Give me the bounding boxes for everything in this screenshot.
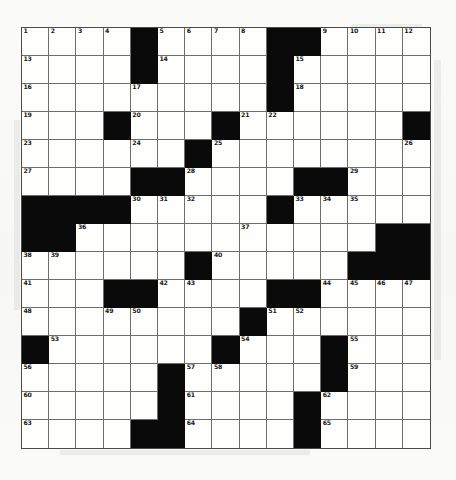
crossword-open-cell[interactable]	[321, 84, 348, 112]
crossword-open-cell[interactable]: 41	[22, 280, 49, 308]
crossword-open-cell[interactable]	[104, 224, 131, 252]
crossword-open-cell[interactable]	[376, 84, 403, 112]
crossword-open-cell[interactable]	[104, 336, 131, 364]
crossword-open-cell[interactable]	[376, 308, 403, 336]
crossword-open-cell[interactable]	[76, 420, 103, 448]
crossword-open-cell[interactable]	[76, 336, 103, 364]
crossword-open-cell[interactable]	[403, 84, 430, 112]
crossword-open-cell[interactable]	[158, 224, 185, 252]
crossword-open-cell[interactable]: 45	[348, 280, 375, 308]
crossword-open-cell[interactable]: 55	[348, 336, 375, 364]
crossword-open-cell[interactable]: 48	[22, 308, 49, 336]
crossword-open-cell[interactable]	[76, 392, 103, 420]
crossword-open-cell[interactable]	[104, 56, 131, 84]
crossword-open-cell[interactable]	[185, 84, 212, 112]
crossword-open-cell[interactable]	[321, 140, 348, 168]
crossword-open-cell[interactable]	[376, 112, 403, 140]
crossword-open-cell[interactable]	[403, 392, 430, 420]
crossword-open-cell[interactable]: 36	[76, 224, 103, 252]
crossword-open-cell[interactable]: 52	[294, 308, 321, 336]
crossword-open-cell[interactable]	[376, 420, 403, 448]
crossword-open-cell[interactable]	[49, 308, 76, 336]
crossword-open-cell[interactable]	[240, 84, 267, 112]
crossword-open-cell[interactable]: 21	[240, 112, 267, 140]
crossword-open-cell[interactable]	[212, 420, 239, 448]
crossword-open-cell[interactable]: 49	[104, 308, 131, 336]
crossword-open-cell[interactable]	[240, 392, 267, 420]
crossword-open-cell[interactable]	[294, 364, 321, 392]
crossword-open-cell[interactable]	[49, 168, 76, 196]
crossword-open-cell[interactable]: 29	[348, 168, 375, 196]
crossword-open-cell[interactable]	[158, 252, 185, 280]
crossword-open-cell[interactable]: 18	[294, 84, 321, 112]
crossword-open-cell[interactable]	[76, 84, 103, 112]
crossword-open-cell[interactable]: 61	[185, 392, 212, 420]
crossword-open-cell[interactable]: 4	[104, 28, 131, 56]
crossword-open-cell[interactable]	[76, 112, 103, 140]
crossword-open-cell[interactable]: 14	[158, 56, 185, 84]
crossword-open-cell[interactable]: 56	[22, 364, 49, 392]
crossword-open-cell[interactable]	[376, 364, 403, 392]
crossword-open-cell[interactable]: 20	[131, 112, 158, 140]
crossword-open-cell[interactable]	[321, 252, 348, 280]
crossword-open-cell[interactable]: 26	[403, 140, 430, 168]
crossword-open-cell[interactable]	[240, 196, 267, 224]
crossword-open-cell[interactable]	[185, 112, 212, 140]
crossword-open-cell[interactable]	[376, 140, 403, 168]
crossword-open-cell[interactable]: 2	[49, 28, 76, 56]
crossword-open-cell[interactable]	[49, 84, 76, 112]
crossword-open-cell[interactable]: 43	[185, 280, 212, 308]
crossword-open-cell[interactable]	[348, 112, 375, 140]
crossword-open-cell[interactable]: 42	[158, 280, 185, 308]
crossword-open-cell[interactable]	[131, 364, 158, 392]
crossword-open-cell[interactable]	[185, 308, 212, 336]
crossword-open-cell[interactable]	[240, 56, 267, 84]
crossword-open-cell[interactable]: 62	[321, 392, 348, 420]
crossword-open-cell[interactable]	[376, 392, 403, 420]
crossword-open-cell[interactable]: 19	[22, 112, 49, 140]
crossword-open-cell[interactable]	[104, 252, 131, 280]
crossword-open-cell[interactable]	[267, 168, 294, 196]
crossword-open-cell[interactable]	[49, 56, 76, 84]
crossword-open-cell[interactable]	[321, 224, 348, 252]
crossword-open-cell[interactable]	[104, 364, 131, 392]
crossword-open-cell[interactable]: 35	[348, 196, 375, 224]
crossword-open-cell[interactable]: 40	[212, 252, 239, 280]
crossword-open-cell[interactable]: 3	[76, 28, 103, 56]
crossword-open-cell[interactable]: 22	[267, 112, 294, 140]
crossword-open-cell[interactable]: 63	[22, 420, 49, 448]
crossword-open-cell[interactable]: 39	[49, 252, 76, 280]
crossword-open-cell[interactable]	[294, 252, 321, 280]
crossword-open-cell[interactable]	[267, 252, 294, 280]
crossword-open-cell[interactable]	[104, 168, 131, 196]
crossword-open-cell[interactable]	[76, 168, 103, 196]
crossword-open-cell[interactable]	[76, 252, 103, 280]
crossword-open-cell[interactable]	[294, 224, 321, 252]
crossword-open-cell[interactable]	[104, 84, 131, 112]
crossword-open-cell[interactable]	[403, 56, 430, 84]
crossword-open-cell[interactable]	[49, 140, 76, 168]
crossword-open-cell[interactable]: 32	[185, 196, 212, 224]
crossword-open-cell[interactable]: 59	[348, 364, 375, 392]
crossword-open-cell[interactable]	[267, 336, 294, 364]
crossword-open-cell[interactable]	[212, 168, 239, 196]
crossword-open-cell[interactable]	[267, 140, 294, 168]
crossword-open-cell[interactable]	[403, 196, 430, 224]
crossword-open-cell[interactable]	[49, 364, 76, 392]
crossword-open-cell[interactable]: 47	[403, 280, 430, 308]
crossword-open-cell[interactable]	[185, 336, 212, 364]
crossword-open-cell[interactable]	[158, 308, 185, 336]
crossword-open-cell[interactable]	[76, 280, 103, 308]
crossword-open-cell[interactable]: 25	[212, 140, 239, 168]
crossword-open-cell[interactable]: 64	[185, 420, 212, 448]
crossword-open-cell[interactable]	[76, 364, 103, 392]
crossword-open-cell[interactable]	[348, 224, 375, 252]
crossword-open-cell[interactable]	[212, 196, 239, 224]
crossword-open-cell[interactable]	[104, 140, 131, 168]
crossword-open-cell[interactable]: 6	[185, 28, 212, 56]
crossword-open-cell[interactable]: 8	[240, 28, 267, 56]
crossword-open-cell[interactable]	[185, 224, 212, 252]
crossword-open-cell[interactable]: 15	[294, 56, 321, 84]
crossword-open-cell[interactable]: 60	[22, 392, 49, 420]
crossword-open-cell[interactable]	[76, 56, 103, 84]
